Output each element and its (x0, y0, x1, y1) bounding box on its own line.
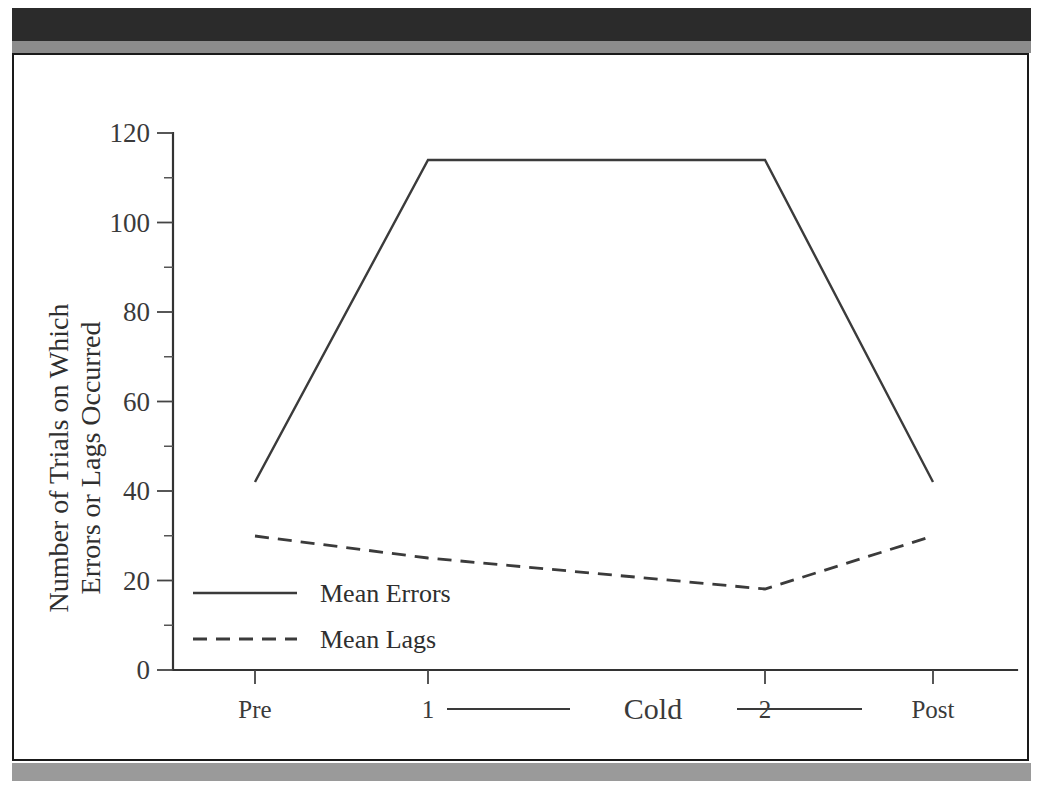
y-tick-label-120: 120 (110, 118, 151, 148)
y-axis-title-line1: Number of Trials on Which (43, 303, 74, 612)
y-tick-label-60: 60 (123, 387, 150, 417)
series-line-mean-errors (255, 160, 933, 482)
y-tick-label-80: 80 (123, 297, 150, 327)
y-axis-title-line2: Errors or Lags Occurred (75, 322, 106, 595)
x-tick-label-1: 1 (422, 696, 435, 723)
x-tick-label-pre: Pre (238, 696, 271, 723)
legend-label-mean-lags: Mean Lags (320, 625, 436, 654)
y-tick-label-0: 0 (137, 655, 151, 685)
plot-area: Number of Trials on Which Errors or Lags… (0, 53, 1043, 763)
figure-page: Number of Trials on Which Errors or Lags… (0, 0, 1043, 791)
y-axis-tick-labels: 0 20 40 60 80 100 120 (110, 118, 151, 685)
y-tick-label-20: 20 (123, 566, 150, 596)
line-chart: Number of Trials on Which Errors or Lags… (0, 53, 1043, 763)
scan-bar-gray-bottom (12, 763, 1031, 781)
y-axis-title: Number of Trials on Which Errors or Lags… (43, 303, 106, 612)
group-bracket-cold: Cold (447, 692, 862, 725)
group-bracket-label: Cold (624, 692, 682, 725)
scan-bar-gray-top (12, 41, 1031, 53)
x-axis-ticks (255, 670, 933, 684)
x-tick-label-post: Post (911, 696, 954, 723)
legend: Mean Errors Mean Lags (193, 579, 451, 654)
y-tick-label-40: 40 (123, 476, 150, 506)
scan-bar-dark-top (12, 8, 1031, 41)
legend-label-mean-errors: Mean Errors (320, 579, 451, 608)
y-tick-label-100: 100 (110, 208, 151, 238)
y-axis-major-ticks (157, 133, 173, 670)
